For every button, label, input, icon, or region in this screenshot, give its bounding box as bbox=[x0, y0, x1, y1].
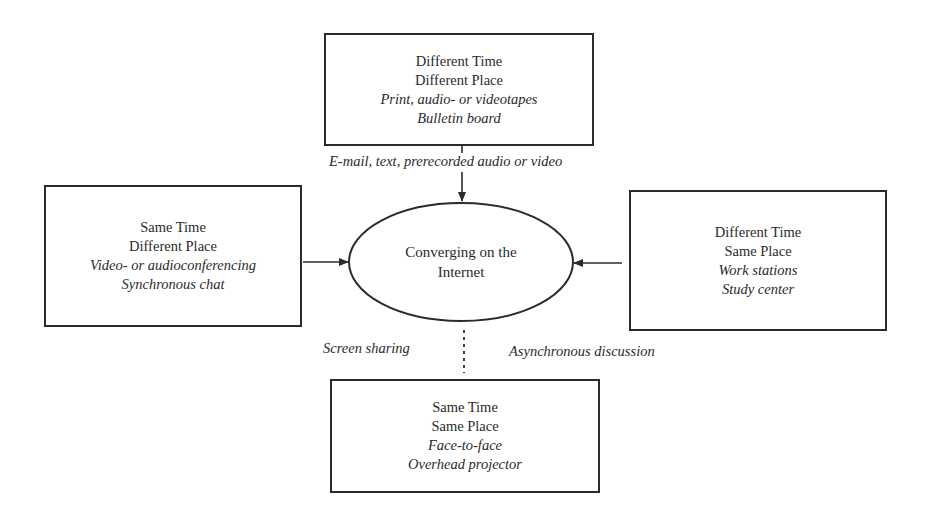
box-example: Video- or audioconferencing bbox=[90, 256, 256, 275]
box-line: Same Place bbox=[724, 242, 791, 261]
box-different-time-different-place: Different Time Different Place Print, au… bbox=[324, 33, 594, 146]
box-same-time-same-place: Same Time Same Place Face-to-face Overhe… bbox=[330, 379, 600, 493]
center-label-line: Internet bbox=[438, 262, 485, 282]
box-example: Work stations bbox=[719, 261, 798, 280]
box-same-time-different-place: Same Time Different Place Video- or audi… bbox=[44, 185, 302, 327]
center-label-line: Converging on the bbox=[405, 242, 516, 262]
box-line: Different Time bbox=[715, 223, 801, 242]
box-line: Different Time bbox=[416, 52, 502, 71]
box-example: Bulletin board bbox=[417, 109, 501, 128]
box-line: Same Place bbox=[431, 417, 498, 436]
screen-sharing-label: Screen sharing bbox=[323, 340, 410, 357]
box-example: Synchronous chat bbox=[122, 275, 225, 294]
box-line: Same Time bbox=[140, 218, 206, 237]
box-example: Overhead projector bbox=[408, 455, 522, 474]
box-example: Print, audio- or videotapes bbox=[380, 90, 537, 109]
box-line: Different Place bbox=[129, 237, 217, 256]
box-different-time-same-place: Different Time Same Place Work stations … bbox=[629, 190, 887, 331]
top-connector-label: E-mail, text, prerecorded audio or video bbox=[329, 153, 562, 170]
box-example: Face-to-face bbox=[428, 436, 502, 455]
asynchronous-discussion-label: Asynchronous discussion bbox=[509, 343, 655, 360]
box-example: Study center bbox=[722, 280, 794, 299]
center-node: Converging on the Internet bbox=[348, 203, 574, 321]
box-line: Different Place bbox=[415, 71, 503, 90]
box-line: Same Time bbox=[432, 398, 498, 417]
